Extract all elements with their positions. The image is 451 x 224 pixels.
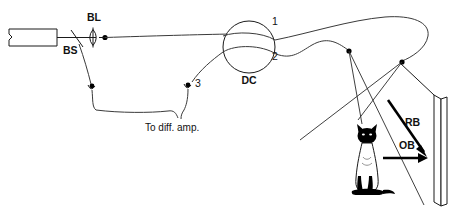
schematic-diagram: BS BL DC 1 2 bbox=[0, 0, 451, 224]
fiber-port1-to-reference-tip bbox=[275, 17, 428, 61]
reference-beam-label: RB bbox=[405, 116, 421, 128]
fiber-port2-to-object-tip bbox=[276, 41, 348, 56]
beam-splitter-label: BS bbox=[63, 44, 78, 56]
detector-bs-branch bbox=[88, 84, 95, 89]
fiber-bs-to-detector bbox=[79, 44, 91, 84]
detector-port-3 bbox=[184, 83, 191, 88]
port-2-label: 2 bbox=[272, 50, 278, 62]
object-beam-label: OB bbox=[399, 139, 415, 151]
laser-source bbox=[9, 29, 96, 46]
directional-coupler bbox=[223, 21, 276, 73]
object-beam-arrow bbox=[383, 153, 428, 163]
lead-detector-a bbox=[92, 90, 178, 118]
figure-root: BS BL DC 1 2 bbox=[0, 0, 451, 224]
coupler-label: DC bbox=[241, 74, 257, 86]
fiber-launch-to-coupler bbox=[105, 34, 232, 38]
figure-caption-strip bbox=[0, 214, 451, 224]
lead-detector-b bbox=[181, 89, 188, 119]
holographic-plate bbox=[400, 63, 447, 206]
port-1-label: 1 bbox=[272, 15, 278, 27]
cat-object bbox=[352, 124, 395, 195]
diff-amp-label: To diff. amp. bbox=[145, 122, 199, 133]
port-3-label: 3 bbox=[195, 77, 201, 89]
beam-lens-label: BL bbox=[87, 11, 102, 23]
